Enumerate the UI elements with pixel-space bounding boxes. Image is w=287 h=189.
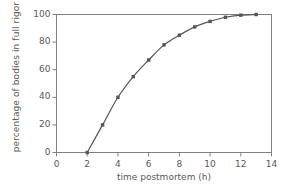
x-tick-label: 12 [231,159,251,169]
data-point [254,13,257,16]
x-tick-label: 8 [169,159,189,169]
x-tick-label: 2 [77,159,97,169]
x-tick-label: 14 [262,159,282,169]
data-point [101,123,104,126]
x-tick-label: 0 [47,159,67,169]
data-point [208,20,211,23]
y-tick-label: 0 [25,147,51,157]
data-markers [86,13,258,154]
data-point [224,16,227,19]
y-tick-label: 40 [25,91,51,101]
data-point [132,75,135,78]
y-tick-label: 60 [25,64,51,74]
data-point [162,43,165,46]
axis-ticks [53,15,272,157]
data-point [147,58,150,61]
data-line [87,15,256,153]
data-point [239,13,242,16]
x-tick-label: 4 [108,159,128,169]
chart-figure: percentage of bodies in full rigor time … [0,0,287,189]
axes-frame [57,15,272,153]
data-point [116,96,119,99]
data-point [86,151,89,154]
y-tick-label: 100 [25,9,51,19]
x-tick-label: 10 [200,159,220,169]
y-tick-label: 20 [25,119,51,129]
y-tick-label: 80 [25,36,51,46]
data-point [193,25,196,28]
x-tick-label: 6 [139,159,159,169]
data-point [178,34,181,37]
